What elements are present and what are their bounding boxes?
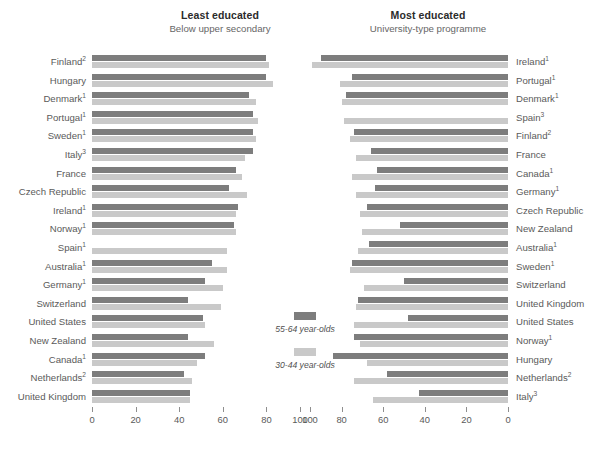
- axis-tick: [466, 407, 467, 412]
- bar-30-44: [92, 229, 236, 235]
- country-label: Australia1: [516, 238, 608, 258]
- panel-subtitle-least-educated: Below upper secondary: [105, 22, 335, 35]
- axis-tick-label: 100: [292, 414, 308, 425]
- bar-group: [300, 145, 508, 165]
- bar-30-44: [92, 304, 221, 310]
- bar-group: [300, 368, 508, 388]
- bar-30-44: [367, 360, 508, 366]
- country-label: Canada1: [0, 350, 86, 370]
- chart-legend: 55-64 year-olds30-44 year-olds: [275, 312, 335, 370]
- country-label: Sweden1: [0, 126, 86, 146]
- country-label: Norway1: [0, 219, 86, 239]
- bar-55-64: [419, 390, 508, 396]
- bar-group: [92, 71, 310, 91]
- bar-30-44: [92, 136, 256, 142]
- bar-group: [92, 219, 310, 239]
- bar-30-44: [92, 118, 258, 124]
- bar-group: [300, 238, 508, 258]
- bar-30-44: [354, 322, 508, 328]
- bar-group: [92, 108, 310, 128]
- bar-30-44: [92, 99, 256, 105]
- bar-55-64: [408, 315, 508, 321]
- bar-group: [300, 387, 508, 407]
- axis-tick-label: 80: [336, 414, 346, 425]
- country-label: Switzerland: [516, 275, 608, 295]
- bar-55-64: [92, 222, 234, 228]
- bar-30-44: [92, 248, 227, 254]
- bar-55-64: [92, 334, 188, 340]
- country-label: Finland2: [516, 126, 608, 146]
- bar-55-64: [352, 260, 508, 266]
- country-label: Denmark1: [516, 89, 608, 109]
- bar-group: [92, 89, 310, 109]
- country-label: Sweden1: [516, 257, 608, 277]
- bar-55-64: [354, 129, 508, 135]
- bar-group: [300, 164, 508, 184]
- bar-30-44: [92, 62, 269, 68]
- country-label: Switzerland: [0, 294, 86, 314]
- bar-group: [300, 294, 508, 314]
- country-label: Netherlands2: [0, 368, 86, 388]
- bar-group: [92, 368, 310, 388]
- country-label: United States: [0, 312, 86, 332]
- country-label: Hungary: [516, 350, 608, 370]
- bar-group: [300, 89, 508, 109]
- bar-55-64: [404, 278, 508, 284]
- axis-tick-label: 60: [378, 414, 388, 425]
- panel-header-most-educated: Most educated University-type programme: [313, 9, 543, 35]
- bar-30-44: [92, 397, 190, 403]
- axis-tick-label: 20: [461, 414, 471, 425]
- bar-group: [92, 387, 310, 407]
- country-label: Canada1: [516, 164, 608, 184]
- bar-55-64: [92, 353, 205, 359]
- bar-30-44: [356, 304, 508, 310]
- panel-title-most-educated: Most educated: [313, 9, 543, 22]
- country-label: Portugal1: [0, 108, 86, 128]
- education-attainment-chart: Least educated Below upper secondary Mos…: [0, 0, 608, 453]
- legend-label-older: 55-64 year-olds: [275, 324, 335, 334]
- x-axis-right: 100806040200: [0, 407, 608, 433]
- country-label: Czech Republic: [516, 201, 608, 221]
- bar-30-44: [350, 136, 508, 142]
- bar-30-44: [358, 248, 508, 254]
- panel-title-least-educated: Least educated: [105, 9, 335, 22]
- bar-55-64: [371, 148, 508, 154]
- bar-group: [92, 294, 310, 314]
- bar-30-44: [92, 285, 223, 291]
- country-label: France: [0, 164, 86, 184]
- country-label: Ireland1: [516, 52, 608, 72]
- country-label: Netherlands2: [516, 368, 608, 388]
- country-label: Spain3: [516, 108, 608, 128]
- bar-group: [300, 182, 508, 202]
- bar-group: [300, 275, 508, 295]
- bar-group: [92, 52, 310, 72]
- country-label: United Kingdom: [0, 387, 86, 407]
- country-label: Norway1: [516, 331, 608, 351]
- bar-30-44: [92, 174, 242, 180]
- axis-tick: [425, 407, 426, 412]
- bar-55-64: [92, 55, 266, 61]
- country-label: Ireland1: [0, 201, 86, 221]
- country-label: Czech Republic: [0, 182, 86, 202]
- bar-30-44: [92, 322, 205, 328]
- bar-group: [300, 71, 508, 91]
- axis-tick-label: 0: [505, 414, 510, 425]
- bar-55-64: [92, 129, 253, 135]
- country-label: Germany1: [516, 182, 608, 202]
- bar-30-44: [312, 62, 508, 68]
- bar-30-44: [92, 360, 197, 366]
- bar-30-44: [360, 211, 508, 217]
- bar-group: [300, 219, 508, 239]
- bar-30-44: [92, 192, 247, 198]
- bar-55-64: [377, 167, 508, 173]
- bar-55-64: [92, 315, 203, 321]
- country-label: France: [516, 145, 608, 165]
- bar-30-44: [92, 341, 214, 347]
- bar-55-64: [92, 74, 266, 80]
- bar-30-44: [356, 155, 508, 161]
- bar-30-44: [364, 285, 508, 291]
- bar-55-64: [92, 185, 229, 191]
- bar-30-44: [342, 99, 508, 105]
- bar-30-44: [360, 341, 508, 347]
- bar-30-44: [344, 118, 508, 124]
